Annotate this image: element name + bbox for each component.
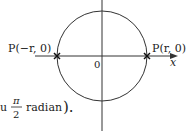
caption-close: ). [63,98,74,116]
caption-prefix: u [0,101,7,114]
point-right-label: P(r, 0) [152,42,186,55]
caption-fraction-numerator: π [12,95,20,106]
origin-label: 0 [94,59,100,70]
caption-suffix: radian [26,101,62,114]
x-axis-label: x [170,56,177,69]
circle-diagram: P(−r, 0) P(r, 0) 0 x u π 2 radian ). [0,0,187,131]
caption-fraction-denominator: 2 [13,109,19,120]
point-left-label: P(−r, 0) [8,42,51,55]
